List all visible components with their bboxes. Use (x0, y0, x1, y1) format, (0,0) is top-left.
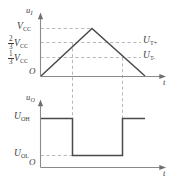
triangular-wave (41, 29, 145, 77)
label-ut-minus-sub: T- (150, 55, 155, 61)
y-tick-one-third-vcc: 1 3 VCC (8, 51, 28, 67)
y-tick-uol-sub: OL (21, 153, 29, 159)
fraction-two-thirds: 2 3 (8, 36, 14, 52)
bottom-y-axis-label: uO (26, 93, 35, 102)
y-tick-vcc-sub: CC (23, 26, 31, 32)
bottom-y-axis-label-sub: O (31, 97, 35, 103)
top-y-axis-label-sub: I (31, 10, 33, 16)
y-tick-uoh-main: U (14, 111, 21, 121)
bottom-origin-label: O (29, 158, 36, 167)
y-tick-uol-main: U (14, 148, 21, 158)
bottom-plot-guides (41, 119, 73, 156)
y-tick-vcc: VCC (17, 22, 31, 32)
bottom-x-axis-label: t (163, 169, 165, 178)
fraction-one-third: 1 3 (8, 51, 14, 67)
bottom-plot-axes (38, 100, 166, 171)
top-plot-guides (41, 29, 142, 156)
top-x-axis-label: t (163, 78, 165, 87)
y-tick-uoh-sub: OH (21, 116, 30, 122)
label-ut-plus: UT+ (143, 36, 157, 46)
top-y-axis-arrow (38, 13, 43, 20)
y-tick-vcc-main: V (17, 21, 23, 31)
label-ut-minus: UT- (143, 51, 155, 61)
top-y-axis-label-main: u (26, 5, 30, 15)
y-tick-two-thirds-sub: CC (20, 43, 28, 49)
y-tick-one-third-sub: CC (20, 58, 28, 64)
top-plot-axes (38, 13, 166, 80)
top-y-axis-label: uI (26, 6, 32, 15)
input-waveform (41, 29, 145, 77)
waveform-figure: uI t O VCC 2 3 VCC 1 3 VCC UT+ UT- uO (0, 0, 173, 183)
y-tick-uoh: UOH (14, 112, 29, 122)
y-tick-uol: UOL (14, 149, 29, 159)
output-waveform (41, 119, 145, 156)
label-ut-plus-main: U (143, 35, 150, 45)
bottom-y-axis-label-main: u (26, 92, 30, 102)
square-wave (41, 119, 145, 156)
label-ut-plus-sub: T+ (150, 40, 157, 46)
bottom-y-axis-arrow (38, 100, 43, 107)
top-origin-label: O (29, 67, 36, 76)
fraction-one-third-denominator: 3 (8, 59, 14, 67)
label-ut-minus-main: U (143, 50, 150, 60)
